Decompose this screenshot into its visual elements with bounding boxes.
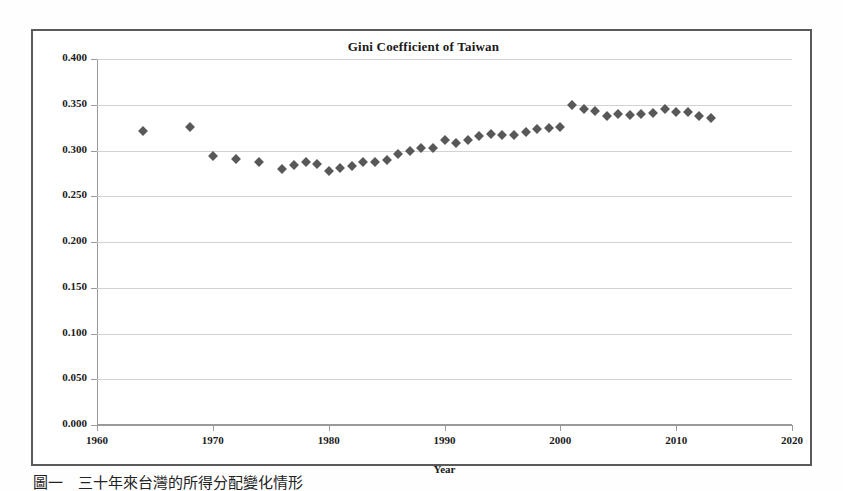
gridline-y (97, 59, 792, 60)
y-tick-label: 0.400 (35, 51, 87, 63)
y-tick-label: 0.150 (35, 280, 87, 292)
x-tick-mark (676, 425, 677, 431)
x-tick-mark (329, 425, 330, 431)
y-tick-label: 0.350 (35, 97, 87, 109)
figure-caption: 圖一 三十年來台灣的所得分配變化情形 (33, 471, 453, 491)
y-tick-label: 0.100 (35, 326, 87, 338)
x-tick-label: 2000 (530, 434, 590, 446)
chart-title: Gini Coefficient of Taiwan (33, 39, 814, 55)
x-tick-label: 1990 (415, 434, 475, 446)
y-tick-label: 0.250 (35, 188, 87, 200)
y-tick-mark (91, 242, 97, 243)
gridline-y (97, 379, 792, 380)
gridline-y (97, 105, 792, 106)
plot-area: 0.0000.0500.1000.1500.2000.2500.3000.350… (97, 59, 792, 425)
chart-frame: Gini Coefficient of Taiwan 0.0000.0500.1… (31, 29, 812, 466)
x-tick-mark (445, 425, 446, 431)
x-tick-mark (213, 425, 214, 431)
gridline-y (97, 334, 792, 335)
figure-page: Gini Coefficient of Taiwan 0.0000.0500.1… (0, 0, 843, 491)
x-tick-mark (97, 425, 98, 431)
y-tick-mark (91, 334, 97, 335)
y-tick-mark (91, 379, 97, 380)
x-tick-label: 2020 (762, 434, 822, 446)
x-tick-label: 2010 (646, 434, 706, 446)
gridline-y (97, 242, 792, 243)
x-tick-label: 1970 (183, 434, 243, 446)
x-tick-label: 1960 (67, 434, 127, 446)
y-tick-mark (91, 105, 97, 106)
gridline-y (97, 196, 792, 197)
y-tick-mark (91, 288, 97, 289)
gridline-y (97, 151, 792, 152)
y-tick-label: 0.000 (35, 417, 87, 429)
y-tick-label: 0.050 (35, 371, 87, 383)
x-tick-mark (792, 425, 793, 431)
y-tick-mark (91, 151, 97, 152)
y-tick-mark (91, 196, 97, 197)
x-tick-mark (560, 425, 561, 431)
x-tick-label: 1980 (299, 434, 359, 446)
y-tick-label: 0.300 (35, 143, 87, 155)
y-tick-mark (91, 59, 97, 60)
y-tick-label: 0.200 (35, 234, 87, 246)
gridline-y (97, 288, 792, 289)
